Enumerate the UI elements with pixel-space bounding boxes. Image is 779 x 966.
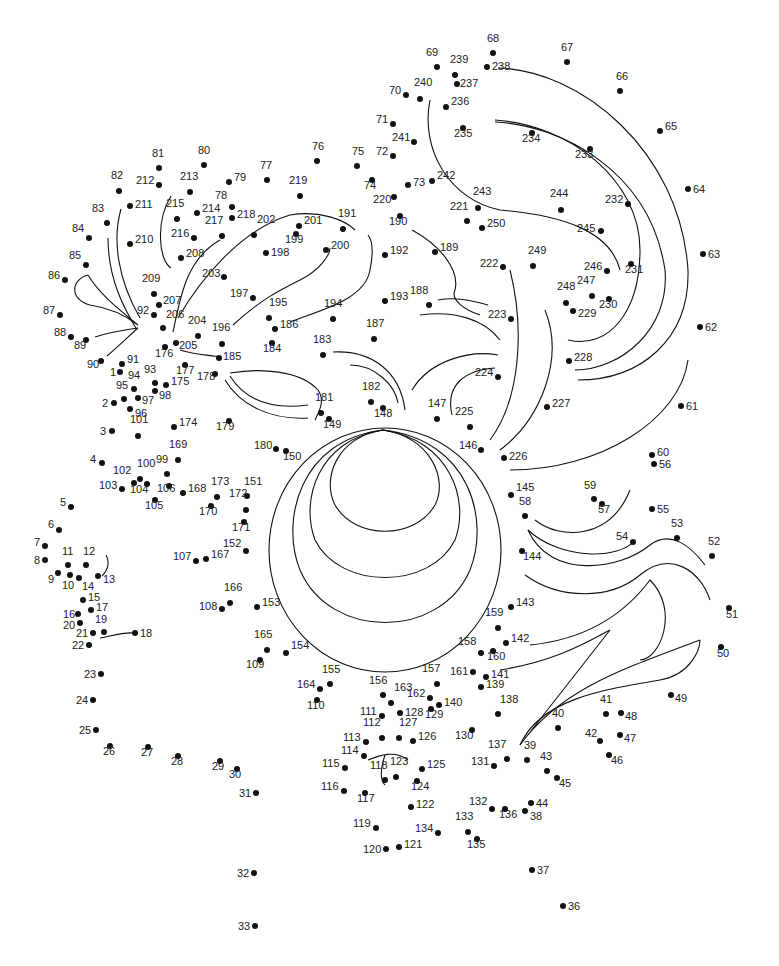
- dot-label: 210: [135, 234, 153, 245]
- dot-207: [156, 302, 162, 308]
- dot-137: [504, 756, 510, 762]
- dot-247: [589, 293, 595, 299]
- dot-92: [151, 312, 157, 318]
- dot-label: 40: [552, 708, 564, 719]
- dot-label: 163: [394, 682, 412, 693]
- dot-label: 147: [428, 398, 446, 409]
- dot-label: 206: [166, 309, 184, 320]
- dot-label: 174: [179, 417, 197, 428]
- dot-158: [478, 650, 484, 656]
- dot-label: 234: [522, 133, 540, 144]
- dot-label: 28: [171, 756, 183, 767]
- dot-label: 72: [376, 146, 388, 157]
- dot-label: 84: [72, 223, 84, 234]
- dot-label: 153: [262, 597, 280, 608]
- dot-label: 70: [389, 85, 401, 96]
- dot-label: 241: [392, 132, 410, 143]
- dot-161: [470, 669, 476, 675]
- dot-131: [491, 763, 497, 769]
- dot-85: [83, 262, 89, 268]
- dot-label: 216: [171, 228, 189, 239]
- dot-226: [501, 455, 507, 461]
- dot-121: [396, 844, 402, 850]
- dot-181: [318, 410, 324, 416]
- dot-120: [383, 846, 389, 852]
- dot-163: [388, 700, 394, 706]
- dot-label: 169: [169, 439, 187, 450]
- dot-245: [598, 228, 604, 234]
- dot-label: 170: [199, 506, 217, 517]
- dot-193: [382, 298, 388, 304]
- dot-139: [478, 684, 484, 690]
- dot-212: [156, 182, 162, 188]
- dot-42: [597, 738, 603, 744]
- dot-182: [368, 399, 374, 405]
- dot-label: 73: [413, 177, 425, 188]
- dot-label: 102: [113, 465, 131, 476]
- dot-146: [478, 447, 484, 453]
- dot-label: 215: [166, 198, 184, 209]
- dot-label: 218: [237, 209, 255, 220]
- dot-label: 71: [376, 114, 388, 125]
- dot-label: 149: [323, 419, 341, 430]
- dot-label: 199: [285, 234, 303, 245]
- dot-143: [508, 604, 514, 610]
- dot-label: 113: [343, 732, 361, 743]
- dot-label: 219: [289, 175, 307, 186]
- dot-197: [250, 295, 256, 301]
- dot-99: [164, 471, 170, 477]
- dot-label: 134: [415, 823, 433, 834]
- dot-label: 203: [202, 268, 220, 279]
- dot-label: 43: [540, 751, 552, 762]
- dot-17: [88, 607, 94, 613]
- dot-202: [251, 232, 257, 238]
- dot-68: [490, 50, 496, 56]
- dot-168: [180, 490, 186, 496]
- dot-label: 22: [72, 640, 84, 651]
- dot-label: 18: [140, 628, 152, 639]
- dot-label: 157: [422, 663, 440, 674]
- dot-33: [252, 923, 258, 929]
- dot-label: 107: [173, 551, 191, 562]
- dot-209: [151, 291, 157, 297]
- dot-36: [560, 903, 566, 909]
- dot-173: [214, 494, 220, 500]
- dot-31: [253, 790, 259, 796]
- dot-229: [570, 308, 576, 314]
- dot-241: [411, 139, 417, 145]
- dot-label: 180: [254, 440, 272, 451]
- dot-174: [171, 424, 177, 430]
- dot-label: 183: [313, 334, 331, 345]
- dot-label: 20: [63, 620, 75, 631]
- dot-246: [604, 268, 610, 274]
- dot-label: 242: [437, 170, 455, 181]
- dot-label: 194: [324, 298, 342, 309]
- dot-label: 182: [362, 381, 380, 392]
- dot-label: 48: [625, 711, 637, 722]
- dot-label: 82: [111, 170, 123, 181]
- dot-label: 1: [110, 367, 116, 378]
- dot-label: 205: [179, 340, 197, 351]
- dot-187: [371, 336, 377, 342]
- dot-label: 63: [708, 249, 720, 260]
- dot-label: 130: [455, 730, 473, 741]
- dot-label: 54: [616, 531, 628, 542]
- dot-label: 179: [216, 421, 234, 432]
- dot-label: 142: [511, 633, 529, 644]
- dot-59: [591, 496, 597, 502]
- dot-label: 37: [537, 865, 549, 876]
- dot-label: 192: [390, 245, 408, 256]
- dot-label: 248: [557, 281, 575, 292]
- dot-label: 100: [137, 458, 155, 469]
- dot-label: 33: [238, 921, 250, 932]
- dot-113: [363, 739, 369, 745]
- dot-label: 81: [152, 148, 164, 159]
- dot-118: [382, 777, 388, 783]
- dot-64: [685, 186, 691, 192]
- dot-206: [160, 325, 166, 331]
- dot-195: [266, 315, 272, 321]
- dot-37: [529, 867, 535, 873]
- dot-label: 77: [260, 160, 272, 171]
- dot-label: 223: [488, 309, 506, 320]
- dot-label: 25: [79, 725, 91, 736]
